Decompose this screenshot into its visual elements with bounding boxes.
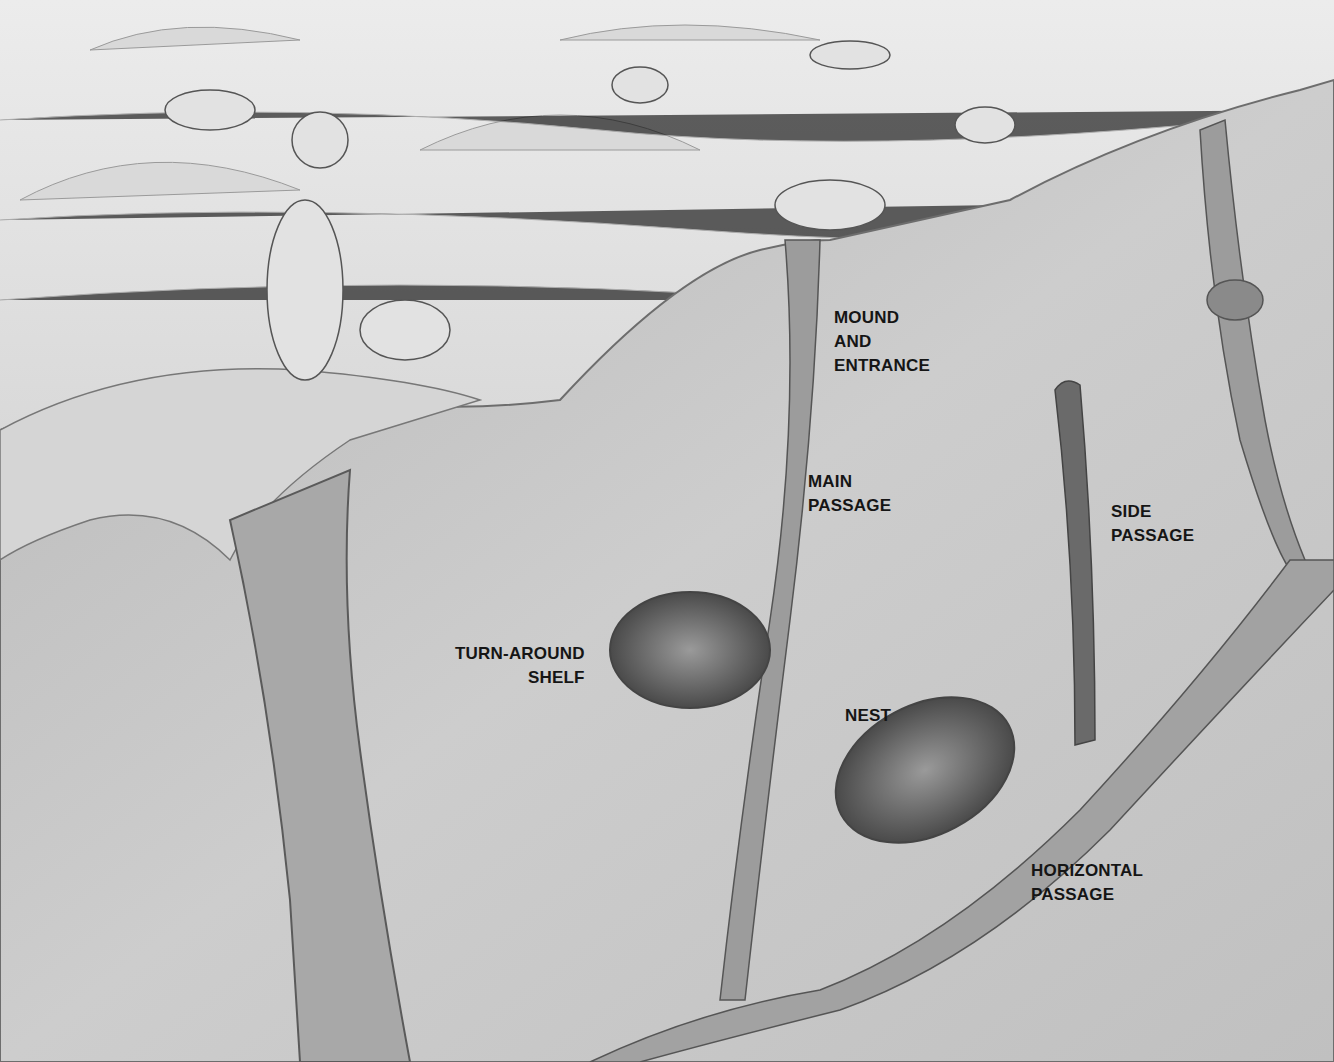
label-side-passage: SIDE PASSAGE xyxy=(1111,500,1194,548)
crouching-prairie-dog xyxy=(360,300,450,360)
label-horizontal-passage: HORIZONTAL PASSAGE xyxy=(1031,859,1143,907)
label-turn-around-shelf: TURN-AROUND SHELF xyxy=(455,642,585,690)
label-main-passage: MAIN PASSAGE xyxy=(808,470,891,518)
standing-prairie-dog xyxy=(267,200,343,380)
label-nest: NEST xyxy=(845,704,891,728)
burrow-prairie-dog xyxy=(1207,280,1263,320)
label-mound-and-entrance: MOUND AND ENTRANCE xyxy=(834,306,930,378)
turn-around-shelf xyxy=(610,592,770,708)
mound-prairie-dog xyxy=(775,180,885,230)
